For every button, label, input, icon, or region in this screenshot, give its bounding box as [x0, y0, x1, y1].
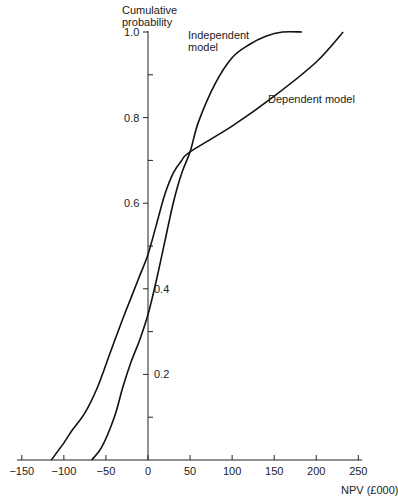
dependent-model-label: Dependent model	[268, 93, 355, 105]
y-tick-label: 1.0	[124, 26, 139, 38]
x-tick-label: 150	[265, 465, 283, 477]
x-axis-ticks	[22, 455, 359, 460]
x-tick-label: 0	[145, 465, 151, 477]
x-tick-label: 50	[184, 465, 196, 477]
independent-model-label-line1: Independent	[188, 29, 249, 41]
y-axis-title-line1: Cumulative	[122, 4, 177, 16]
x-axis-title: NPV (£000)	[341, 484, 398, 496]
y-tick-label: 0.4	[154, 283, 169, 295]
y-tick-label: 0.2	[154, 368, 169, 380]
y-tick-label: 0.6	[124, 197, 139, 209]
y-tick-label: 0.8	[124, 112, 139, 124]
x-tick-label: 200	[307, 465, 325, 477]
x-tick-label: 100	[223, 465, 241, 477]
x-tick-label: −150	[9, 465, 34, 477]
independent-model-label-line2: model	[188, 41, 218, 53]
x-tick-label: −100	[51, 465, 76, 477]
x-tick-label: 250	[349, 465, 367, 477]
x-tick-label: −50	[97, 465, 116, 477]
